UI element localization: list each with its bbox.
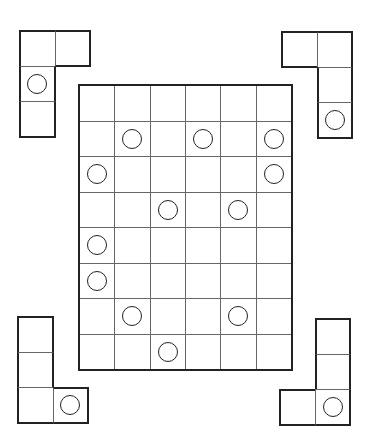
circle-marker-icon bbox=[122, 129, 142, 149]
piece-bottom-left-cell-r1-c0[interactable] bbox=[17, 352, 54, 389]
piece-top-right-cell-r2-c1[interactable] bbox=[317, 102, 354, 139]
circle-marker-icon bbox=[264, 164, 284, 184]
piece-top-left-cell-r2-c0[interactable] bbox=[19, 101, 56, 138]
grid-cell-r3-c4[interactable] bbox=[220, 192, 256, 229]
grid-cell-r6-c0[interactable] bbox=[79, 298, 115, 335]
piece-top-right-cell-r0-c1[interactable] bbox=[317, 31, 354, 68]
grid-cell-r6-c3[interactable] bbox=[185, 298, 221, 335]
grid-cell-r7-c2[interactable] bbox=[150, 334, 186, 371]
piece-top-right-cell-r1-c1[interactable] bbox=[317, 67, 354, 104]
grid-cell-r2-c4[interactable] bbox=[220, 156, 256, 193]
grid-cell-r0-c0[interactable] bbox=[79, 85, 115, 122]
circle-marker-icon bbox=[325, 110, 345, 130]
grid-cell-r1-c5[interactable] bbox=[256, 121, 292, 158]
piece-bottom-left-cell-r0-c0[interactable] bbox=[17, 316, 54, 353]
grid-cell-r5-c4[interactable] bbox=[220, 263, 256, 300]
grid-cell-r4-c0[interactable] bbox=[79, 227, 115, 264]
grid-cell-r6-c2[interactable] bbox=[150, 298, 186, 335]
grid-cell-r4-c3[interactable] bbox=[185, 227, 221, 264]
grid-cell-r2-c3[interactable] bbox=[185, 156, 221, 193]
grid-cell-r3-c3[interactable] bbox=[185, 192, 221, 229]
grid-cell-r5-c1[interactable] bbox=[114, 263, 150, 300]
grid-cell-r4-c2[interactable] bbox=[150, 227, 186, 264]
circle-marker-icon bbox=[87, 271, 107, 291]
circle-marker-icon bbox=[323, 397, 343, 417]
circle-marker-icon bbox=[158, 200, 178, 220]
grid-cell-r1-c1[interactable] bbox=[114, 121, 150, 158]
piece-top-left-cell-r1-c0[interactable] bbox=[19, 66, 56, 103]
grid-cell-r4-c4[interactable] bbox=[220, 227, 256, 264]
grid-cell-r6-c4[interactable] bbox=[220, 298, 256, 335]
grid-cell-r5-c3[interactable] bbox=[185, 263, 221, 300]
grid-cell-r5-c5[interactable] bbox=[256, 263, 292, 300]
piece-top-right-cell-r0-c0[interactable] bbox=[281, 31, 318, 68]
grid-cell-r7-c3[interactable] bbox=[185, 334, 221, 371]
grid-cell-r6-c1[interactable] bbox=[114, 298, 150, 335]
circle-marker-icon bbox=[158, 342, 178, 362]
circle-marker-icon bbox=[264, 129, 284, 149]
circle-marker-icon bbox=[193, 129, 213, 149]
grid-cell-r4-c5[interactable] bbox=[256, 227, 292, 264]
circle-marker-icon bbox=[228, 200, 248, 220]
grid-cell-r7-c4[interactable] bbox=[220, 334, 256, 371]
grid-cell-r2-c1[interactable] bbox=[114, 156, 150, 193]
grid-cell-r2-c5[interactable] bbox=[256, 156, 292, 193]
grid-cell-r0-c3[interactable] bbox=[185, 85, 221, 122]
piece-bottom-left-cell-r2-c0[interactable] bbox=[17, 387, 54, 424]
piece-bottom-right-cell-r2-c0[interactable] bbox=[279, 389, 316, 426]
grid-cell-r0-c1[interactable] bbox=[114, 85, 150, 122]
circle-marker-icon bbox=[228, 306, 248, 326]
grid-cell-r6-c5[interactable] bbox=[256, 298, 292, 335]
grid-cell-r7-c0[interactable] bbox=[79, 334, 115, 371]
grid-cell-r3-c1[interactable] bbox=[114, 192, 150, 229]
grid-cell-r0-c4[interactable] bbox=[220, 85, 256, 122]
grid-cell-r2-c2[interactable] bbox=[150, 156, 186, 193]
piece-top-left-cell-r0-c1[interactable] bbox=[55, 30, 92, 67]
grid-cell-r1-c2[interactable] bbox=[150, 121, 186, 158]
grid-cell-r3-c2[interactable] bbox=[150, 192, 186, 229]
piece-bottom-right-cell-r0-c1[interactable] bbox=[315, 318, 352, 355]
circle-marker-icon bbox=[87, 164, 107, 184]
circle-marker-icon bbox=[27, 74, 47, 94]
grid-cell-r1-c4[interactable] bbox=[220, 121, 256, 158]
circle-marker-icon bbox=[122, 306, 142, 326]
grid-cell-r5-c0[interactable] bbox=[79, 263, 115, 300]
circle-marker-icon bbox=[87, 235, 107, 255]
grid-cell-r3-c0[interactable] bbox=[79, 192, 115, 229]
piece-bottom-right-cell-r1-c1[interactable] bbox=[315, 354, 352, 391]
grid-cell-r1-c0[interactable] bbox=[79, 121, 115, 158]
grid-cell-r0-c2[interactable] bbox=[150, 85, 186, 122]
grid-cell-r4-c1[interactable] bbox=[114, 227, 150, 264]
piece-bottom-right-cell-r2-c1[interactable] bbox=[315, 389, 352, 426]
grid-cell-r7-c1[interactable] bbox=[114, 334, 150, 371]
circle-marker-icon bbox=[60, 395, 80, 415]
grid-cell-r2-c0[interactable] bbox=[79, 156, 115, 193]
piece-top-left-cell-r0-c0[interactable] bbox=[19, 30, 56, 67]
grid-cell-r0-c5[interactable] bbox=[256, 85, 292, 122]
grid-cell-r7-c5[interactable] bbox=[256, 334, 292, 371]
piece-bottom-left-cell-r2-c1[interactable] bbox=[53, 387, 90, 424]
grid-cell-r5-c2[interactable] bbox=[150, 263, 186, 300]
grid-cell-r3-c5[interactable] bbox=[256, 192, 292, 229]
grid-cell-r1-c3[interactable] bbox=[185, 121, 221, 158]
